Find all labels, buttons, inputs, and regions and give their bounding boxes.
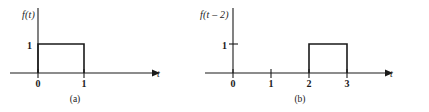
y-axis-label-b: f(t – 2) — [200, 9, 229, 20]
x-tick-label-1-a: 1 — [78, 78, 90, 89]
waveform-pulse-b — [309, 44, 347, 73]
panel-caption-a: (a) — [55, 94, 95, 104]
x-tick-label-1-b: 1 — [265, 78, 277, 89]
x-tick-label-0-b: 0 — [227, 78, 239, 89]
panel-caption-b: (b) — [280, 94, 320, 104]
x-tick-label-0-a: 0 — [32, 78, 44, 89]
plot-panel-a: f(t) t 1 0 1 (a) — [0, 0, 214, 112]
x-tick-label-3-b: 3 — [341, 78, 353, 89]
x-axis-label-a: t — [157, 68, 160, 79]
y-tick-label-1-a: 1 — [27, 40, 32, 51]
plot-panel-b: f(t – 2) t 1 0 1 2 3 (b) — [200, 0, 414, 112]
figure-container: f(t) t 1 0 1 (a) f(t – 2) t 1 0 1 — [0, 0, 429, 112]
x-axis-label-b: t — [390, 68, 393, 79]
x-tick-label-2-b: 2 — [303, 78, 315, 89]
y-tick-label-1-b: 1 — [222, 40, 227, 51]
waveform-pulse-a — [38, 44, 84, 73]
y-axis-label-a: f(t) — [22, 9, 35, 20]
